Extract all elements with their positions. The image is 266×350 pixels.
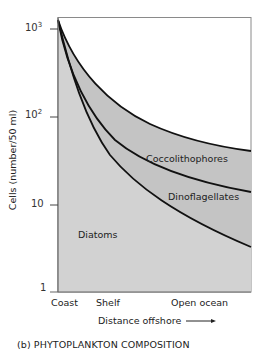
- y-axis-label: Cells (number/50 ml): [7, 110, 18, 210]
- coccolithophores-label: Coccolithophores: [146, 153, 228, 164]
- xtick-open-ocean: Open ocean: [171, 297, 228, 308]
- xtick-coast: Coast: [51, 297, 78, 308]
- xtick-shelf: Shelf: [96, 297, 120, 308]
- ytick-label-10: 10: [31, 198, 44, 209]
- ytick-label-1: 1: [40, 282, 46, 293]
- arrowhead-icon: [211, 319, 216, 323]
- figure-title: (b) PHYTOPLANKTON COMPOSITION: [17, 339, 190, 350]
- x-axis-label: Distance offshore: [98, 315, 181, 326]
- ytick-label-100: 102: [25, 108, 42, 120]
- diatoms-label: Diatoms: [78, 229, 118, 240]
- dinoflagellates-label: Dinoflagellates: [168, 191, 239, 202]
- ytick-label-1000: 103: [25, 21, 42, 33]
